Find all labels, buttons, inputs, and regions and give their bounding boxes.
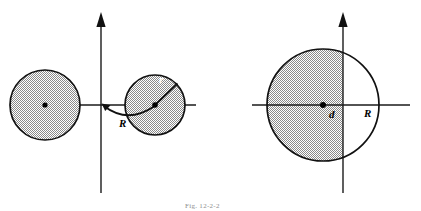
label-R-radius: R: [363, 107, 371, 119]
geometry-figure-svg: R r d R Fig. 12-2-2: [0, 0, 421, 211]
label-R-arc: R: [118, 117, 126, 129]
right-panel: d R: [252, 12, 410, 193]
figure-caption: Fig. 12-2-2: [185, 202, 220, 210]
left-panel: R r: [10, 12, 196, 193]
right-circle-center-dot: [152, 102, 158, 108]
left-vertical-axis-arrowhead: [96, 12, 105, 27]
right-vertical-axis-arrowhead: [338, 12, 347, 27]
label-r-radius: r: [159, 73, 164, 85]
figure-container: R r d R Fig. 12-2-2: [0, 0, 421, 211]
label-d-offset: d: [329, 108, 335, 120]
left-circle-center-dot: [42, 102, 47, 107]
big-circle-center-dot: [320, 102, 326, 108]
